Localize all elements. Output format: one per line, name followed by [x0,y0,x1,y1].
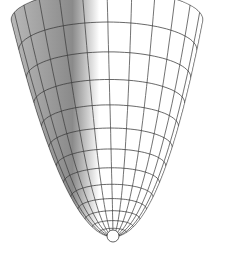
vertex-hole [107,230,119,242]
paraboloid-surface [0,0,226,258]
figure-stage [0,0,226,258]
